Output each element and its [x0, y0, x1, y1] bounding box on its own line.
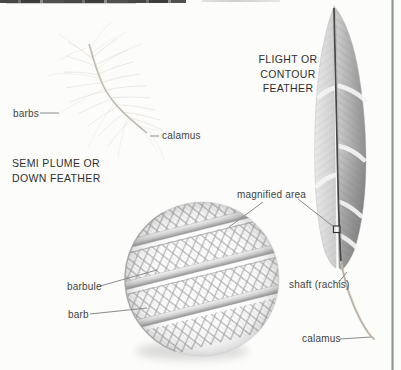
- top-edge-crop-artifact-light: [202, 0, 280, 2]
- label-shaft-rachis: shaft (rachis): [289, 279, 350, 290]
- down-feather-illustration: [48, 22, 172, 160]
- label-barbs: barbs: [13, 108, 39, 119]
- calamus-flight-leader: [340, 337, 371, 339]
- label-calamus-down: calamus: [162, 130, 201, 141]
- label-barb: barb: [68, 309, 89, 320]
- diagram-artwork: [0, 0, 401, 370]
- label-barbule: barbule: [67, 281, 102, 292]
- label-magnified-area: magnified area: [237, 189, 306, 200]
- magnified-circle-illustration: [93, 178, 305, 366]
- top-edge-crop-artifact-2: [6, 3, 136, 4]
- flight-feather-title-line3: FEATHER: [247, 81, 329, 96]
- semi-plume-title-line2: DOWN FEATHER: [12, 171, 101, 186]
- semi-plume-title-line1: SEMI PLUME OR: [12, 156, 101, 171]
- semi-plume-title: SEMI PLUME OR DOWN FEATHER: [12, 156, 101, 185]
- feather-anatomy-diagram: barbs calamus SEMI PLUME OR DOWN FEATHER…: [0, 0, 401, 370]
- label-calamus-flight: calamus: [302, 333, 341, 344]
- page-edge-line: [391, 0, 394, 370]
- flight-feather-title-line2: CONTOUR: [247, 67, 329, 82]
- flight-feather-title: FLIGHT OR CONTOUR FEATHER: [247, 52, 329, 96]
- down-feather-shaft: [89, 44, 147, 133]
- flight-feather-title-line1: FLIGHT OR: [247, 52, 329, 67]
- magnified-area-marker: [334, 226, 341, 233]
